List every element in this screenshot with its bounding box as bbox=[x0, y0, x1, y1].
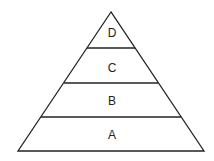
level-label-b: B bbox=[108, 94, 116, 108]
level-label-c: C bbox=[108, 61, 117, 75]
level-label-d: D bbox=[108, 26, 117, 40]
level-label-a: A bbox=[108, 128, 116, 142]
pyramid-diagram: D C B A bbox=[0, 0, 214, 161]
